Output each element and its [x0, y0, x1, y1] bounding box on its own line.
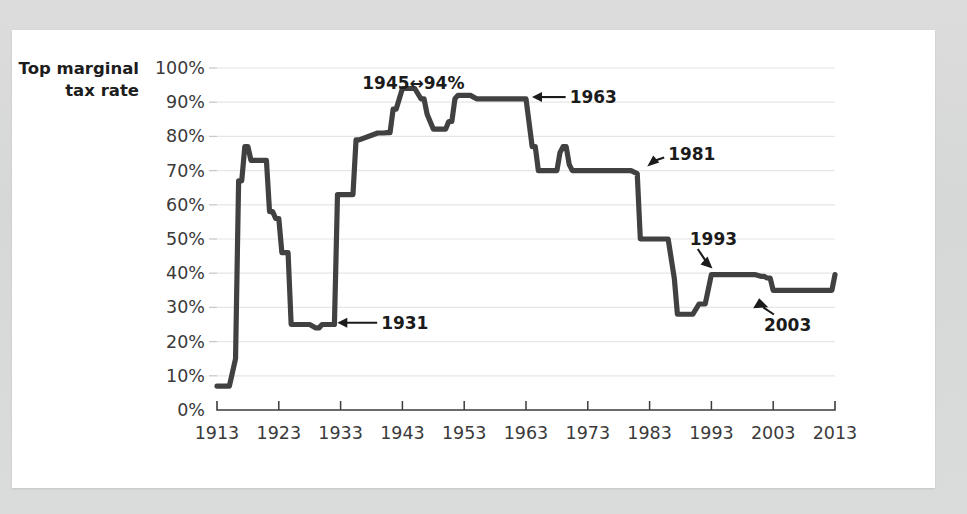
y-tick-label-50: 50%: [166, 229, 205, 249]
y-tick-label-40: 40%: [166, 263, 205, 283]
y-tick-label-0: 0%: [177, 400, 205, 420]
annotation-label-a1981: 1981: [668, 144, 715, 164]
x-tick-label-1943: 1943: [380, 423, 425, 443]
annotation-label-a1993: 1993: [690, 229, 737, 249]
x-tick-labels-group: 1913192319331943195319631973198319932003…: [195, 423, 858, 443]
annotation-label-a1931: 1931: [381, 313, 428, 333]
y-tick-label-80: 80%: [166, 126, 205, 146]
y-axis-title-line1: Top marginal: [19, 59, 139, 78]
annotation-arrowhead-a2003: [753, 298, 768, 308]
y-axis-title-line2: tax rate: [65, 81, 139, 100]
axis-title-group: Top marginaltax rate: [19, 59, 139, 100]
annotation-arrow-a2003: [763, 307, 774, 314]
annotation-arrowhead-a1993: [700, 257, 712, 269]
y-tick-label-20: 20%: [166, 332, 205, 352]
chart-card: 0%10%20%30%40%50%60%70%80%90%100% 191319…: [12, 30, 935, 488]
y-tick-label-70: 70%: [166, 161, 205, 181]
annotation-arrowhead-a1931: [337, 318, 347, 328]
x-tick-label-2013: 2013: [813, 423, 858, 443]
x-tick-label-1953: 1953: [442, 423, 487, 443]
annotation-arrowhead-a1963: [532, 92, 542, 102]
y-tick-label-10: 10%: [166, 366, 205, 386]
y-tick-label-30: 30%: [166, 297, 205, 317]
y-tick-label-100: 100%: [155, 58, 205, 78]
x-tick-label-1983: 1983: [627, 423, 672, 443]
annotation-label-a1963: 1963: [570, 87, 617, 107]
page-wrapper: 0%10%20%30%40%50%60%70%80%90%100% 191319…: [0, 0, 967, 514]
x-tick-label-1913: 1913: [195, 423, 240, 443]
annotation-arrow-a1993: [698, 249, 706, 261]
tax-rate-line-chart: 0%10%20%30%40%50%60%70%80%90%100% 191319…: [12, 30, 935, 488]
annotations-group: 1945↔94%19631931198119932003: [337, 73, 811, 334]
annotation-arrowhead-a1981: [647, 156, 659, 167]
annotation-label-a2003: 2003: [764, 315, 811, 335]
annotation-label-a1945: 1945↔94%: [362, 73, 464, 93]
x-tick-label-2003: 2003: [751, 423, 796, 443]
axes-group: [217, 401, 835, 410]
y-tick-label-90: 90%: [166, 92, 205, 112]
x-tick-label-1933: 1933: [318, 423, 363, 443]
y-tick-labels-group: 0%10%20%30%40%50%60%70%80%90%100%: [155, 58, 217, 420]
x-tick-label-1923: 1923: [257, 423, 302, 443]
y-tick-label-60: 60%: [166, 195, 205, 215]
x-tick-label-1963: 1963: [504, 423, 549, 443]
x-tick-label-1973: 1973: [566, 423, 611, 443]
x-tick-label-1993: 1993: [689, 423, 734, 443]
chart-area: 0%10%20%30%40%50%60%70%80%90%100% 191319…: [12, 30, 935, 488]
